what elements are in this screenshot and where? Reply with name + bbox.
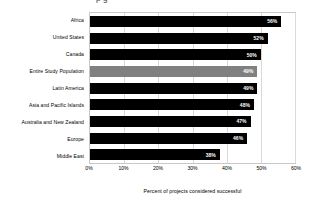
bar[interactable]: 47% [90, 116, 251, 127]
category-label: Australia and New Zealand [6, 113, 88, 130]
bar-row: 47% [90, 113, 295, 130]
x-axis-ticks: 0%10%20%30%40%50%60% [89, 165, 296, 175]
bar-row: 49% [90, 63, 295, 80]
bar[interactable]: 38% [90, 149, 220, 160]
bar[interactable]: 49% [90, 83, 257, 94]
x-tick-label: 40% [222, 165, 232, 171]
bar-row: 38% [90, 146, 295, 163]
x-tick-label: 60% [291, 165, 301, 171]
category-label: Entire Study Population [6, 63, 88, 80]
x-tick-label: 10% [118, 165, 128, 171]
bar[interactable]: 48% [90, 99, 254, 110]
bar-row: 56% [90, 13, 295, 30]
clipped-title-text: p g [96, 0, 108, 3]
bar-row: 50% [90, 46, 295, 63]
bars-layer: 56%52%50%49%49%48%47%46%38% [90, 13, 295, 163]
x-tick-label: 20% [153, 165, 163, 171]
category-label: Asia and Pacific Islands [6, 96, 88, 113]
bar-row: 49% [90, 80, 295, 97]
category-label: Africa [6, 12, 88, 29]
category-label: Latin America [6, 80, 88, 97]
bar-value-label: 38% [206, 152, 216, 158]
category-label: Europe [6, 130, 88, 147]
bar[interactable]: 56% [90, 16, 281, 27]
bar-row: 48% [90, 96, 295, 113]
x-tick-label: 50% [256, 165, 266, 171]
bar-value-label: 46% [233, 135, 243, 141]
category-label: United States [6, 29, 88, 46]
bar-value-label: 47% [236, 118, 246, 124]
bar[interactable]: 49% [90, 66, 257, 77]
bar-value-label: 49% [243, 85, 253, 91]
bar[interactable]: 52% [90, 33, 268, 44]
bar-value-label: 52% [253, 35, 263, 41]
category-label: Canada [6, 46, 88, 63]
bar[interactable]: 50% [90, 49, 261, 60]
bar-row: 52% [90, 30, 295, 47]
x-tick-label: 30% [187, 165, 197, 171]
bar-row: 46% [90, 130, 295, 147]
gridline [295, 13, 296, 163]
x-tick-label: 0% [85, 165, 92, 171]
plot-area: 56%52%50%49%49%48%47%46%38% [89, 12, 296, 164]
category-label: Middle East [6, 147, 88, 164]
x-axis-title: Percent of projects considered successfu… [89, 188, 296, 194]
bar-value-label: 48% [240, 102, 250, 108]
clipped-chart-title: p g [0, 0, 313, 9]
bar-value-label: 49% [243, 68, 253, 74]
bar-value-label: 50% [247, 52, 257, 58]
category-axis: AfricaUnited StatesCanadaEntire Study Po… [6, 12, 88, 164]
bar[interactable]: 46% [90, 133, 247, 144]
bar-chart: p g AfricaUnited StatesCanadaEntire Stud… [0, 0, 313, 208]
bar-value-label: 56% [267, 18, 277, 24]
